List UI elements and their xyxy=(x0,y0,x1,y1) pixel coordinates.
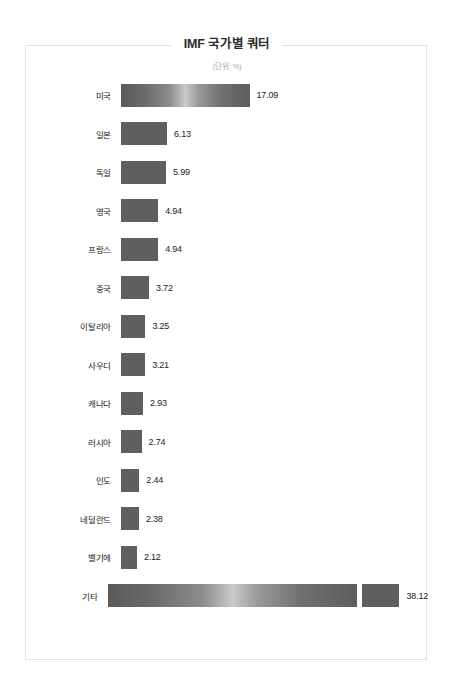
bar-row: 영국4.94 xyxy=(26,192,428,231)
bar-category-label: 네덜란드 xyxy=(26,513,121,525)
bar-segment xyxy=(121,507,139,530)
bar-category-label: 일본 xyxy=(26,128,121,140)
bar-segment xyxy=(121,469,139,492)
bar-row: 일본6.13 xyxy=(26,115,428,154)
bar-value-label: 2.12 xyxy=(137,552,161,562)
bar-category-label: 인도 xyxy=(26,474,121,486)
bar-category-label: 프랑스 xyxy=(26,243,121,255)
bar-track: 6.13 xyxy=(121,115,428,154)
bar-category-label: 기타 xyxy=(26,590,108,602)
bar-value-label: 2.74 xyxy=(142,437,166,447)
bar-row: 미국17.09 xyxy=(26,76,428,115)
page-title: IMF 국가별 쿼터 xyxy=(172,36,282,52)
bar-value-label: 6.13 xyxy=(167,129,191,139)
bar-value-label: 4.94 xyxy=(158,206,182,216)
bar-value-label: 2.44 xyxy=(139,475,163,485)
bar-segment-tail xyxy=(362,584,399,607)
bar-track: 2.74 xyxy=(121,423,428,462)
bar-value-label: 3.25 xyxy=(145,321,169,331)
bar-row: 캐나다2.93 xyxy=(26,384,428,423)
bar-track: 38.12 xyxy=(108,577,428,616)
bar-row: 러시아2.74 xyxy=(26,423,428,462)
chart-panel: IMF 국가별 쿼터 (단위: %) 미국17.09일본6.13독일5.99영국… xyxy=(25,45,427,660)
bar-track: 3.21 xyxy=(121,346,428,385)
bar-value-label: 17.09 xyxy=(250,90,279,100)
chart-page: IMF 국가별 쿼터 (단위: %) 미국17.09일본6.13독일5.99영국… xyxy=(0,0,452,683)
bar-segment xyxy=(121,392,143,415)
bar-value-label: 3.72 xyxy=(149,283,173,293)
bar-row: 네덜란드2.38 xyxy=(26,500,428,539)
bar-track: 2.12 xyxy=(121,538,428,577)
bar-row: 중국3.72 xyxy=(26,269,428,308)
bar-track: 3.72 xyxy=(121,269,428,308)
bar-segment xyxy=(121,122,167,145)
bar-segment xyxy=(121,315,145,338)
bar-track: 4.94 xyxy=(121,230,428,269)
bar-category-label: 영국 xyxy=(26,205,121,217)
bar-track: 17.09 xyxy=(121,76,428,115)
bar-track: 4.94 xyxy=(121,192,428,231)
bar-category-label: 벨기에 xyxy=(26,551,121,563)
bar-row: 프랑스4.94 xyxy=(26,230,428,269)
chart-subtitle: (단위: %) xyxy=(26,60,428,71)
bar-track: 5.99 xyxy=(121,153,428,192)
bar-segment xyxy=(121,430,142,453)
chart-title-container: IMF 국가별 쿼터 xyxy=(26,34,428,52)
bar-row: 벨기에2.12 xyxy=(26,538,428,577)
bar-row: 기타38.12 xyxy=(26,577,428,616)
bar-category-label: 중국 xyxy=(26,282,121,294)
bar-track: 2.44 xyxy=(121,461,428,500)
bar-track: 3.25 xyxy=(121,307,428,346)
bar-segment xyxy=(121,546,137,569)
bar-category-label: 이탈리아 xyxy=(26,320,121,332)
bar-row: 인도2.44 xyxy=(26,461,428,500)
bar-value-label: 2.93 xyxy=(143,398,167,408)
bar-value-label: 38.12 xyxy=(399,591,428,601)
bar-row: 독일5.99 xyxy=(26,153,428,192)
bar-segment xyxy=(121,276,149,299)
bar-value-label: 3.21 xyxy=(145,360,169,370)
bar-value-label: 5.99 xyxy=(166,167,190,177)
bar-segment xyxy=(121,353,145,376)
bar-value-label: 2.38 xyxy=(139,514,163,524)
bar-category-label: 독일 xyxy=(26,166,121,178)
bar-value-label: 4.94 xyxy=(158,244,182,254)
bar-segment xyxy=(121,238,158,261)
bar-segment xyxy=(108,584,358,607)
bar-track: 2.93 xyxy=(121,384,428,423)
bar-category-label: 캐나다 xyxy=(26,397,121,409)
bar-track: 2.38 xyxy=(121,500,428,539)
bar-segment xyxy=(121,199,158,222)
bar-chart-plot: 미국17.09일본6.13독일5.99영국4.94프랑스4.94중국3.72이탈… xyxy=(26,76,428,651)
bar-segment xyxy=(121,84,250,107)
bar-category-label: 미국 xyxy=(26,89,121,101)
bar-category-label: 러시아 xyxy=(26,436,121,448)
bar-row: 이탈리아3.25 xyxy=(26,307,428,346)
bar-category-label: 사우디 xyxy=(26,359,121,371)
bar-segment xyxy=(121,161,166,184)
bar-row: 사우디3.21 xyxy=(26,346,428,385)
